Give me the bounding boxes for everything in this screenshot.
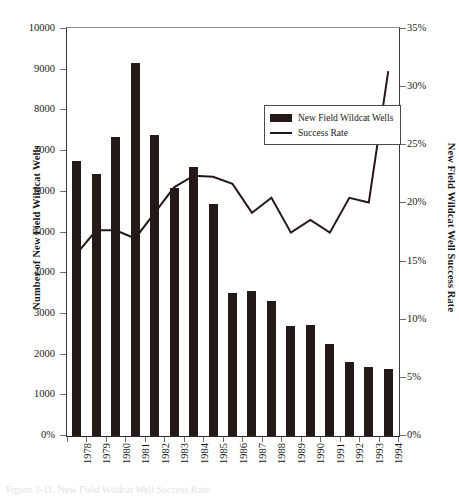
x-axis-label: 1993 bbox=[374, 443, 385, 464]
left-tick-label: 2000 bbox=[7, 349, 55, 359]
figure-container: Number of New Field Wildcat Wells New Fi… bbox=[0, 0, 459, 496]
right-tick-mark bbox=[400, 202, 406, 203]
plot-area: New Field Wildcat Wells Success Rate bbox=[66, 27, 400, 437]
right-tick-mark bbox=[400, 377, 406, 378]
left-tick-label: 6000 bbox=[7, 186, 55, 196]
x-tick-mark bbox=[125, 437, 126, 442]
x-tick-mark bbox=[164, 437, 165, 442]
x-tick-mark bbox=[223, 437, 224, 442]
right-tick-label: 35% bbox=[407, 23, 453, 33]
x-axis-label: 1989 bbox=[296, 443, 307, 464]
x-axis-label: 1984 bbox=[199, 443, 210, 464]
legend-label-line: Success Rate bbox=[298, 128, 348, 138]
x-axis-label: 1991 bbox=[335, 443, 346, 464]
right-tick-label: 30% bbox=[407, 81, 453, 91]
x-tick-mark bbox=[67, 437, 68, 442]
right-tick-mark bbox=[400, 86, 406, 87]
right-tick-label: 10% bbox=[407, 314, 453, 324]
x-tick-mark bbox=[145, 437, 146, 442]
x-axis-label: 1985 bbox=[218, 443, 229, 464]
legend-item-bars: New Field Wildcat Wells bbox=[270, 110, 395, 125]
x-tick-mark bbox=[242, 437, 243, 442]
x-tick-mark bbox=[359, 437, 360, 442]
left-tick-label: 0% bbox=[7, 430, 55, 440]
x-tick-mark bbox=[86, 437, 87, 442]
left-tick-label: 10000 bbox=[7, 23, 55, 33]
right-tick-mark bbox=[400, 319, 406, 320]
x-axis-label: 1979 bbox=[101, 443, 112, 464]
right-tick-label: 20% bbox=[407, 197, 453, 207]
line-swatch-icon bbox=[270, 132, 292, 134]
right-tick-label: 25% bbox=[407, 139, 453, 149]
right-tick-mark bbox=[400, 435, 406, 436]
x-axis-label: 1983 bbox=[179, 443, 190, 464]
x-axis-label: 1990 bbox=[315, 443, 326, 464]
left-tick-label: 1000 bbox=[7, 389, 55, 399]
left-tick-label: 7000 bbox=[7, 145, 55, 155]
x-axis-label: 1982 bbox=[160, 443, 171, 464]
x-tick-mark bbox=[320, 437, 321, 442]
x-axis-label: 1980 bbox=[121, 443, 132, 464]
x-tick-mark bbox=[379, 437, 380, 442]
right-tick-label: 5% bbox=[407, 372, 453, 382]
x-axis-label: 1994 bbox=[393, 443, 404, 464]
left-tick-label: 5000 bbox=[7, 227, 55, 237]
x-axis-label: 1981 bbox=[140, 443, 151, 464]
x-tick-mark bbox=[106, 437, 107, 442]
legend-label-bars: New Field Wildcat Wells bbox=[298, 113, 393, 123]
x-axis-label: 1992 bbox=[354, 443, 365, 464]
x-tick-mark bbox=[262, 437, 263, 442]
x-tick-mark bbox=[281, 437, 282, 442]
bar-swatch-icon bbox=[270, 114, 292, 122]
legend-item-line: Success Rate bbox=[270, 125, 395, 140]
left-tick-label: 3000 bbox=[7, 308, 55, 318]
success-rate-polyline bbox=[77, 71, 389, 254]
x-axis-label: 1987 bbox=[257, 443, 268, 464]
x-tick-mark bbox=[301, 437, 302, 442]
figure-caption: Figure 3-11. New Field Wildcat Well Succ… bbox=[6, 484, 336, 496]
right-tick-mark bbox=[400, 261, 406, 262]
figure-top-title bbox=[0, 0, 459, 4]
chart-legend: New Field Wildcat Wells Success Rate bbox=[264, 105, 401, 145]
right-tick-label: 0% bbox=[407, 430, 453, 440]
x-tick-mark bbox=[340, 437, 341, 442]
x-tick-mark bbox=[184, 437, 185, 442]
left-tick-label: 8000 bbox=[7, 104, 55, 114]
x-axis-label: 1978 bbox=[82, 443, 93, 464]
x-axis-label: 1988 bbox=[276, 443, 287, 464]
right-tick-mark bbox=[400, 28, 406, 29]
x-tick-mark bbox=[398, 437, 399, 442]
x-axis-label: 1986 bbox=[238, 443, 249, 464]
left-tick-label: 9000 bbox=[7, 64, 55, 74]
line-series bbox=[67, 28, 398, 435]
x-tick-mark bbox=[203, 437, 204, 442]
left-tick-label: 4000 bbox=[7, 267, 55, 277]
right-tick-label: 15% bbox=[407, 256, 453, 266]
